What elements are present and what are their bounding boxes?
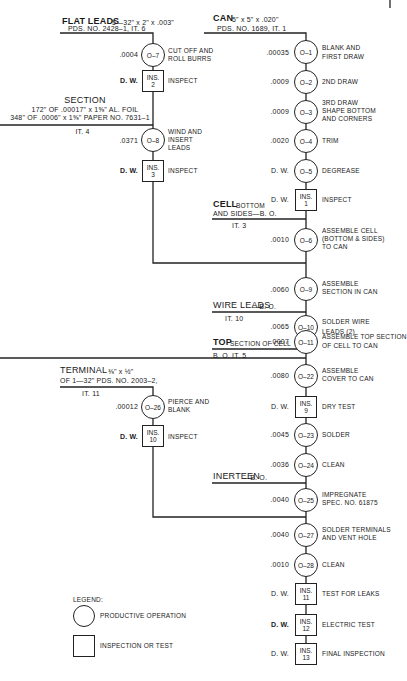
step-value: .0020	[255, 137, 289, 145]
step-id: O–27	[298, 532, 314, 539]
step-value: .0045	[255, 431, 289, 439]
step-desc: SPEC. NO. 61875	[322, 499, 378, 507]
step-value: .0036	[255, 461, 289, 469]
operation-circle: O–4	[294, 129, 318, 153]
step-id: O–11	[298, 339, 313, 346]
operation-circle: O–28	[294, 553, 318, 577]
step-value: .0060	[255, 286, 289, 294]
step-id: O–3	[300, 109, 312, 116]
flat-leads-title: FLAT LEADS	[62, 17, 119, 25]
operation-circle: O–24	[294, 453, 318, 477]
operation-circle: O–11	[294, 330, 318, 354]
inspection-box: INS.2	[142, 70, 164, 92]
step-desc: ASSEMBLE	[322, 280, 359, 288]
step-desc: ROLL BURRS	[168, 55, 211, 63]
step-desc: ASSEMBLE CELL	[322, 227, 378, 235]
cell-sides: AND SIDES—B. O.	[213, 210, 277, 218]
step-desc: BLANK AND	[322, 44, 360, 52]
operation-circle: O–8	[141, 128, 165, 152]
step-desc: SOLDER	[322, 431, 350, 439]
step-id: O–22	[298, 373, 314, 380]
step-desc: ELECTRIC TEST	[322, 621, 375, 629]
step-desc: (BOTTOM & SIDES)	[322, 235, 385, 243]
step-id: INS.	[147, 164, 160, 171]
can-pos: PDS. NO. 1689, IT. 1	[217, 25, 286, 33]
step-value: D. W.	[255, 590, 289, 598]
step-desc: IMPREGNATE	[322, 491, 367, 499]
terminal-title: TERMINAL	[60, 366, 107, 374]
step-id: INS.	[147, 429, 160, 436]
step-id-num: 13	[302, 654, 309, 661]
legend-circle-icon	[73, 605, 95, 627]
operation-circle: O–27	[294, 523, 318, 547]
step-value: .0010	[255, 561, 289, 569]
step-desc: SHAPE BOTTOM	[322, 107, 376, 115]
step-value: D. W.	[104, 433, 138, 441]
step-value: .0371	[104, 137, 138, 145]
operation-circle: O–25	[294, 488, 318, 512]
operation-circle: O–26	[141, 395, 165, 419]
legend-square-label: INSPECTION OR TEST	[100, 642, 173, 650]
inspection-box: INS.10	[142, 425, 164, 447]
step-desc: OF CELL TO CAN	[322, 342, 378, 350]
step-desc: CLEAN	[322, 461, 345, 469]
step-id: INS.	[300, 400, 313, 407]
step-desc: FINAL INSPECTION	[322, 650, 385, 658]
cell-item: IT. 3	[232, 222, 246, 230]
step-id: O–23	[298, 432, 314, 439]
step-desc: INSERT	[168, 136, 193, 144]
operation-circle: O–9	[294, 277, 318, 301]
step-desc: SECTION IN CAN	[322, 288, 378, 296]
step-desc: INSPECT	[322, 196, 352, 204]
step-id: O–4	[300, 138, 312, 145]
step-desc: TEST FOR LEAKS	[322, 590, 380, 598]
step-value: .0040	[255, 531, 289, 539]
step-value: D. W.	[104, 77, 138, 85]
step-id: O–9	[300, 286, 312, 293]
step-desc: DRY TEST	[322, 403, 355, 411]
legend-title: LEGEND:	[73, 596, 103, 604]
step-id: O–7	[147, 52, 159, 59]
can-spec: 5" x 5" x .020"	[232, 16, 279, 24]
inspection-box: INS.11	[295, 583, 317, 605]
operation-circle: O–3	[294, 100, 318, 124]
step-desc: SOLDER WIRE	[322, 318, 370, 326]
step-id: INS.	[300, 618, 313, 625]
step-id: O–24	[298, 462, 314, 469]
step-value: D. W.	[104, 167, 138, 175]
step-id-num: 11	[303, 594, 310, 601]
step-desc: CUT OFF AND	[168, 47, 213, 55]
step-id: O–28	[298, 562, 314, 569]
step-desc: WIND AND	[168, 128, 202, 136]
step-desc: PIERCE AND	[168, 398, 209, 406]
step-value: .00035	[255, 49, 289, 57]
step-id: O–2	[300, 79, 312, 86]
can-title: CAN	[213, 14, 233, 22]
inspection-box: INS.13	[295, 643, 317, 665]
inspection-box: INS.1	[295, 189, 317, 211]
step-desc: ASSEMBLE	[322, 367, 359, 375]
inspection-box: INS.3	[142, 160, 164, 182]
step-value: .0009	[255, 108, 289, 116]
step-value: .0009	[255, 78, 289, 86]
section-foil: 172" OF .00017" x 1⅝" AL. FOIL	[10, 106, 160, 114]
legend-square-icon	[73, 635, 95, 657]
step-desc: TO CAN	[322, 243, 348, 251]
operation-circle: O–1	[294, 40, 318, 64]
step-id: O–26	[145, 404, 161, 411]
step-value: D. W.	[255, 621, 289, 629]
step-id-num: 10	[149, 436, 156, 443]
step-id: O–5	[300, 168, 312, 175]
step-desc: COVER TO CAN	[322, 375, 374, 383]
step-value: .0010	[255, 236, 289, 244]
wire-leads-item: IT. 10	[225, 315, 243, 323]
section-item: IT. 4	[60, 128, 105, 136]
section-paper: 348" OF .0006" x 1⅝" PAPER NO. 7631–1	[0, 114, 160, 122]
step-desc: FIRST DRAW	[322, 53, 364, 61]
terminal-spec: ⅜" x ½"	[108, 368, 133, 376]
cell-title: CELL	[213, 200, 237, 208]
step-value: .0065	[255, 323, 289, 331]
step-value: .0007	[255, 338, 289, 346]
step-desc: AND CORNERS	[322, 115, 372, 123]
step-value: .0080	[255, 372, 289, 380]
